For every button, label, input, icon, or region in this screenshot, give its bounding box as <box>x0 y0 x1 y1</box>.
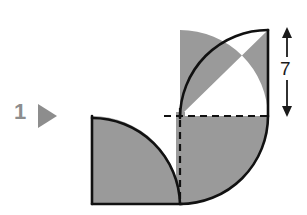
geometry-figure: 1 7 <box>0 0 307 215</box>
problem-number: 1 <box>14 101 26 123</box>
figure-canvas <box>0 0 307 215</box>
dimension-label-7: 7 <box>280 59 291 78</box>
